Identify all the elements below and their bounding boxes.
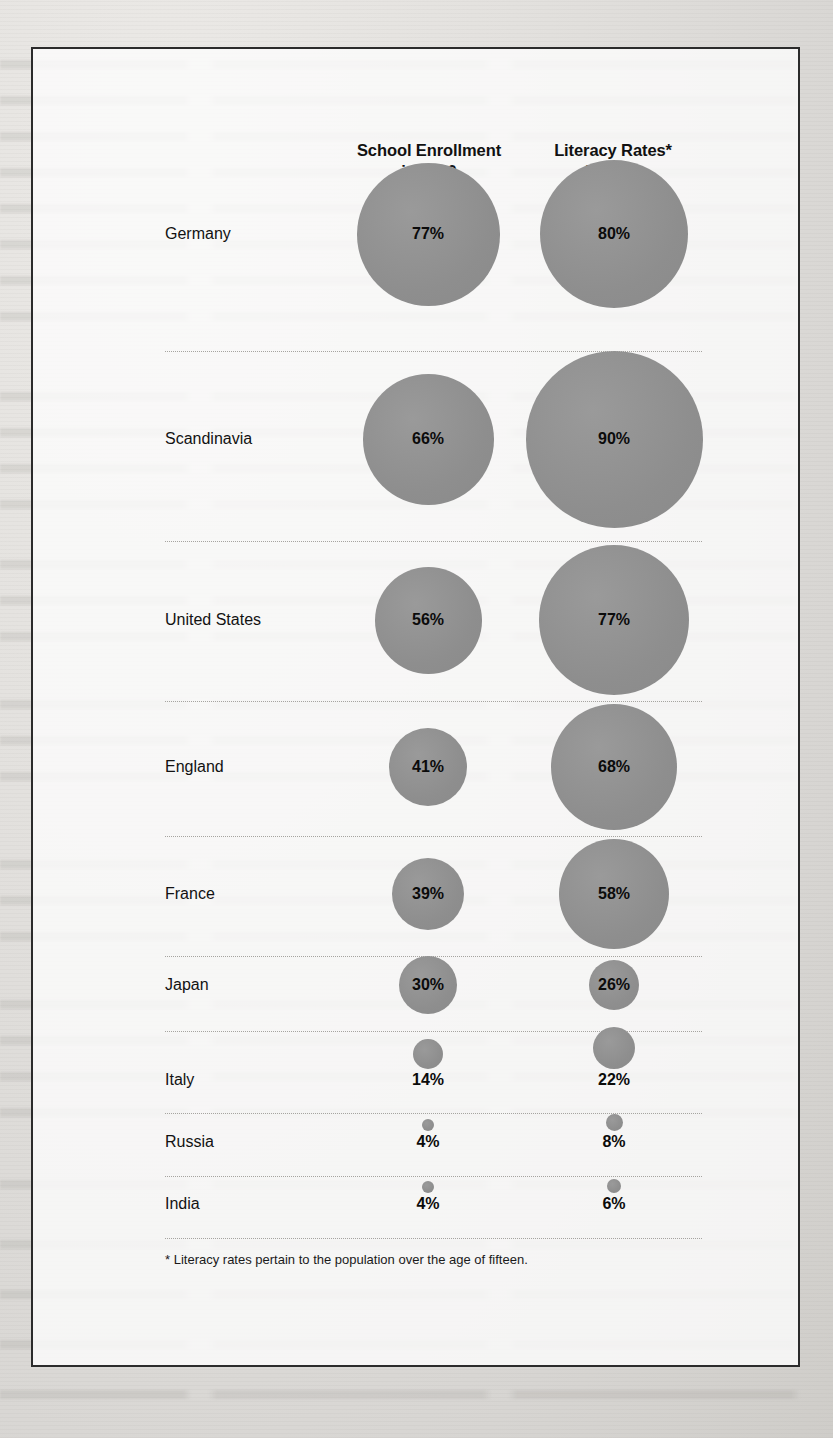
row-label-united-states: United States <box>165 611 261 629</box>
bubble-literacy-italy <box>593 1027 635 1069</box>
bubble-enrollment-russia <box>422 1119 434 1131</box>
bubble-enrollment-india <box>422 1181 434 1193</box>
bubble-value-literacy-russia: 8% <box>574 1133 654 1151</box>
bubble-value-enrollment-japan: 30% <box>388 976 468 994</box>
bubble-value-literacy-italy: 22% <box>574 1071 654 1089</box>
row-label-england: England <box>165 758 224 776</box>
bubble-value-enrollment-germany: 77% <box>388 225 468 243</box>
row-label-russia: Russia <box>165 1133 214 1151</box>
chart-row: India4%6% <box>165 1177 702 1239</box>
row-label-france: France <box>165 885 215 903</box>
column-header-line1: Literacy Rates* <box>501 140 725 161</box>
row-label-japan: Japan <box>165 976 209 994</box>
row-separator <box>165 1238 702 1239</box>
bubble-value-enrollment-england: 41% <box>388 758 468 776</box>
chart-row: Germany77%80% <box>165 162 702 352</box>
footnote: * Literacy rates pertain to the populati… <box>165 1252 765 1267</box>
bubble-value-enrollment-france: 39% <box>388 885 468 903</box>
bubble-value-literacy-germany: 80% <box>574 225 654 243</box>
bubble-value-literacy-india: 6% <box>574 1195 654 1213</box>
bubble-value-literacy-france: 58% <box>574 885 654 903</box>
bubble-value-enrollment-india: 4% <box>388 1195 468 1213</box>
row-label-italy: Italy <box>165 1071 194 1089</box>
bubble-value-literacy-united-states: 77% <box>574 611 654 629</box>
chart-row: Russia4%8% <box>165 1114 702 1177</box>
row-label-india: India <box>165 1195 200 1213</box>
bubble-value-literacy-england: 68% <box>574 758 654 776</box>
bubble-value-enrollment-russia: 4% <box>388 1133 468 1151</box>
chart-frame: School Enrollment in 1830 Literacy Rates… <box>31 47 800 1367</box>
chart-row: England41%68% <box>165 702 702 837</box>
chart-row: United States56%77% <box>165 542 702 702</box>
bubble-literacy-russia <box>606 1114 623 1131</box>
chart-row: Japan30%26% <box>165 957 702 1032</box>
bubble-literacy-india <box>607 1179 621 1193</box>
bubble-value-literacy-scandinavia: 90% <box>574 430 654 448</box>
row-label-germany: Germany <box>165 225 231 243</box>
bubble-value-enrollment-italy: 14% <box>388 1071 468 1089</box>
bubble-enrollment-italy <box>413 1039 443 1069</box>
bubble-value-enrollment-scandinavia: 66% <box>388 430 468 448</box>
chart-row: France39%58% <box>165 837 702 957</box>
bubble-value-literacy-japan: 26% <box>574 976 654 994</box>
bubble-value-enrollment-united-states: 56% <box>388 611 468 629</box>
chart-row: Scandinavia66%90% <box>165 352 702 542</box>
row-label-scandinavia: Scandinavia <box>165 430 252 448</box>
chart-row: Italy14%22% <box>165 1032 702 1114</box>
bleed-through-line <box>0 1390 833 1399</box>
